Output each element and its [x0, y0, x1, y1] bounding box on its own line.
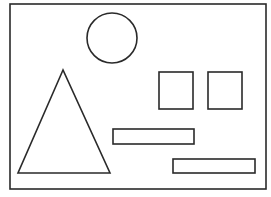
outer-frame — [10, 4, 266, 189]
square-right-shape — [208, 72, 242, 109]
bar-upper-shape — [113, 129, 194, 144]
triangle-shape — [18, 70, 110, 173]
square-left-shape — [159, 72, 193, 109]
bar-lower-shape — [173, 159, 255, 173]
shapes-diagram — [0, 0, 271, 197]
circle-shape — [87, 13, 137, 63]
